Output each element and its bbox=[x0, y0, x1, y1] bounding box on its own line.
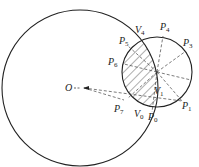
label-p6: P6 bbox=[107, 56, 118, 69]
label-p5: P5 bbox=[118, 35, 129, 48]
label-p7: P7 bbox=[113, 103, 124, 116]
label-o: O bbox=[65, 82, 72, 93]
geometry-diagram: O V4 P4 P3 P5 P6 V1 P1 P7 V0 P0 bbox=[0, 0, 199, 167]
label-p4: P4 bbox=[159, 21, 170, 34]
o-arrow-icon bbox=[83, 86, 89, 90]
label-p3: P3 bbox=[182, 37, 193, 50]
label-p0: P0 bbox=[147, 111, 158, 124]
label-v4: V4 bbox=[135, 24, 145, 37]
diagram-canvas: O V4 P4 P3 P5 P6 V1 P1 P7 V0 P0 bbox=[0, 0, 199, 167]
label-v0: V0 bbox=[134, 108, 144, 121]
label-p1: P1 bbox=[181, 100, 192, 113]
